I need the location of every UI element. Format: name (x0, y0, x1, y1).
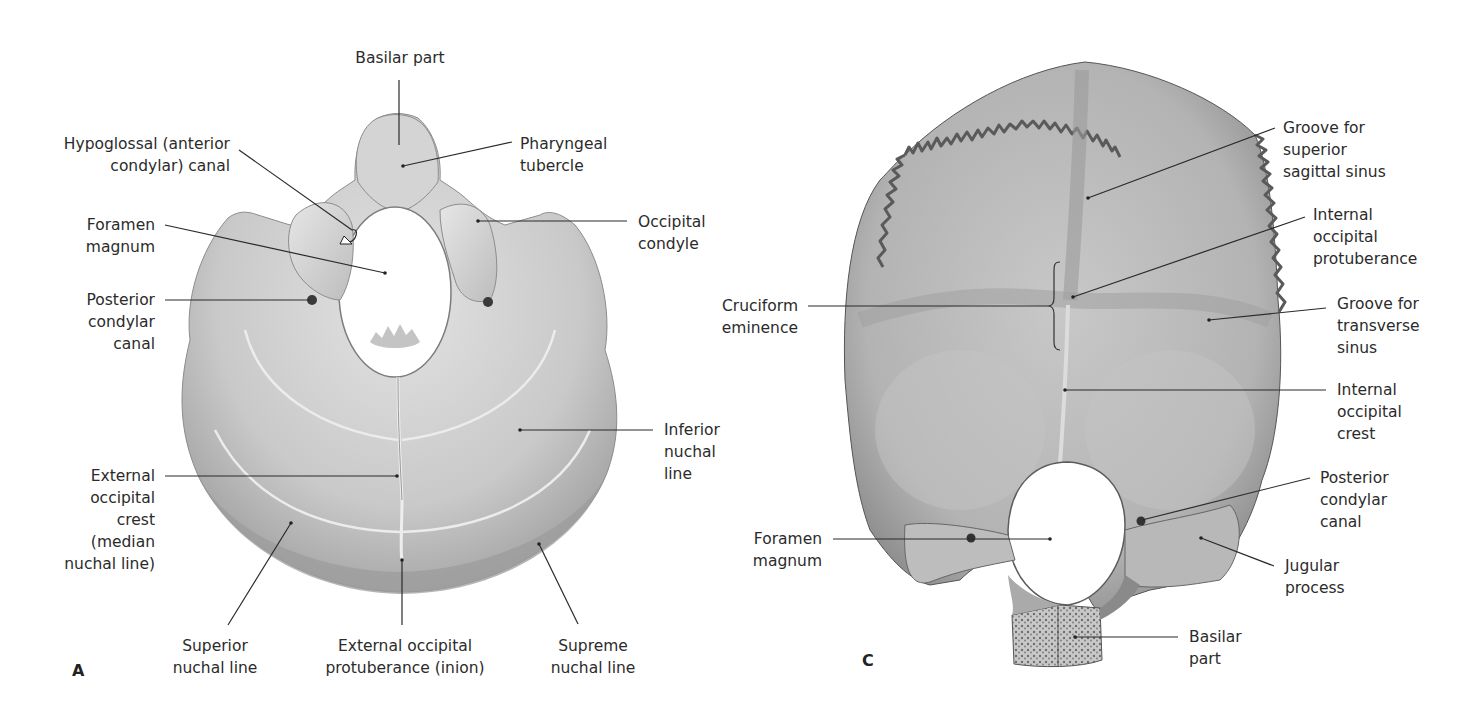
label-text: magnum (730, 550, 822, 572)
label-text: crest (1337, 423, 1402, 445)
label-text: Superior (160, 635, 270, 657)
label-text: part (1189, 648, 1242, 670)
label-text: Groove for (1337, 293, 1420, 315)
label-text: Cruciform (690, 295, 798, 317)
label-text: occipital (1313, 226, 1417, 248)
label-text: magnum (60, 236, 155, 258)
label-text: tubercle (520, 155, 607, 177)
label-text: Posterior (1320, 467, 1389, 489)
label-groove-transverse-sinus: Groove for transverse sinus (1337, 293, 1420, 359)
label-internal-occipital-crest: Internal occipital crest (1337, 379, 1402, 445)
label-text: sagittal sinus (1283, 161, 1386, 183)
label-text: sinus (1337, 337, 1420, 359)
label-groove-superior-sagittal-sinus: Groove for superior sagittal sinus (1283, 117, 1386, 183)
label-basilar-part-c: Basilar part (1189, 626, 1242, 670)
label-foramen-magnum-a: Foramen magnum (60, 214, 155, 258)
label-text: crest (40, 509, 155, 531)
label-occipital-condyle: Occipital condyle (638, 211, 706, 255)
panel-a-bone (182, 114, 617, 595)
label-supreme-nuchal-line: Supreme nuchal line (538, 635, 648, 679)
label-text: Internal (1337, 379, 1402, 401)
label-text: External (40, 465, 155, 487)
label-text: Internal (1313, 204, 1417, 226)
label-text: Posterior (60, 289, 155, 311)
label-text: Basilar (1189, 626, 1242, 648)
label-text: nuchal (664, 441, 720, 463)
label-cruciform-eminence: Cruciform eminence (690, 295, 798, 339)
occipital-bone-figure: Basilar part Hypoglossal (anterior condy… (0, 0, 1470, 711)
panel-letter-a: A (72, 661, 84, 680)
label-text: line (664, 463, 720, 485)
label-text: Basilar part (355, 49, 444, 67)
label-text: Supreme (538, 635, 648, 657)
label-text: superior (1283, 139, 1386, 161)
label-text: condylar (1320, 489, 1389, 511)
label-superior-nuchal-line: Superior nuchal line (160, 635, 270, 679)
label-text: (median (40, 531, 155, 553)
panel-letter-c: C (862, 651, 874, 670)
label-text: Foramen (730, 528, 822, 550)
label-text: Hypoglossal (anterior (20, 133, 230, 155)
label-external-occipital-protuberance: External occipital protuberance (inion) (310, 635, 500, 679)
label-text: condylar (60, 311, 155, 333)
label-text: protuberance (1313, 248, 1417, 270)
label-text: occipital (40, 487, 155, 509)
label-text: protuberance (inion) (310, 657, 500, 679)
label-text: Jugular (1285, 555, 1345, 577)
label-text: canal (60, 333, 155, 355)
anatomy-artwork (0, 0, 1470, 711)
label-text: nuchal line) (40, 553, 155, 575)
label-text: transverse (1337, 315, 1420, 337)
label-text: occipital (1337, 401, 1402, 423)
panel-c-bone (844, 62, 1285, 667)
label-posterior-condylar-canal-c: Posterior condylar canal (1320, 467, 1389, 533)
label-posterior-condylar-canal-a: Posterior condylar canal (60, 289, 155, 355)
label-internal-occipital-protuberance: Internal occipital protuberance (1313, 204, 1417, 270)
label-inferior-nuchal-line: Inferior nuchal line (664, 419, 720, 485)
label-text: process (1285, 577, 1345, 599)
label-text: canal (1320, 511, 1389, 533)
label-text: Groove for (1283, 117, 1386, 139)
label-text: Inferior (664, 419, 720, 441)
label-text: Foramen (60, 214, 155, 236)
label-foramen-magnum-c: Foramen magnum (730, 528, 822, 572)
label-text: Occipital (638, 211, 706, 233)
label-text: nuchal line (160, 657, 270, 679)
label-basilar-part-a: Basilar part (350, 47, 450, 69)
label-pharyngeal-tubercle: Pharyngeal tubercle (520, 133, 607, 177)
label-text: Pharyngeal (520, 133, 607, 155)
label-external-occipital-crest: External occipital crest (median nuchal … (40, 465, 155, 575)
label-text: eminence (690, 317, 798, 339)
label-text: condylar) canal (20, 155, 230, 177)
label-text: nuchal line (538, 657, 648, 679)
label-jugular-process: Jugular process (1285, 555, 1345, 599)
label-text: condyle (638, 233, 706, 255)
label-text: External occipital (310, 635, 500, 657)
label-hypoglossal-canal: Hypoglossal (anterior condylar) canal (20, 133, 230, 177)
